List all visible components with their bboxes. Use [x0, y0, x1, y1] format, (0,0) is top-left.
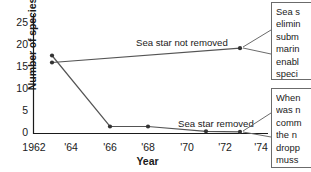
data-point	[238, 46, 242, 50]
chart-figure: Number of species Year 25 20 15 10 5 0 1…	[0, 0, 311, 172]
callout-line: muss	[276, 154, 311, 166]
sea-star-not-removed-callout: Sea s elimin subm marin enabl speci	[271, 2, 311, 80]
axis-lines	[34, 14, 269, 134]
callout-line: comm	[276, 117, 311, 129]
data-point	[108, 124, 112, 128]
callout-line: elimin	[276, 18, 311, 30]
callout-line: was n	[276, 104, 311, 116]
series-sea-star-not-removed	[50, 46, 242, 64]
data-point	[238, 130, 242, 134]
series-sea-star-removed	[50, 53, 242, 133]
data-point	[146, 124, 150, 128]
leader-line-bottom-upper	[243, 113, 271, 131]
leader-line-top-lower	[243, 48, 271, 54]
callout-line: dropp	[276, 142, 311, 154]
callout-line: Sea s	[276, 6, 311, 18]
sea-star-removed-callout: When was n comm the n dropp muss	[271, 88, 311, 168]
leader-line-bottom-lower	[243, 132, 271, 137]
plot-area	[0, 0, 311, 172]
callout-line: subm	[276, 31, 311, 43]
leader-line-top-upper	[243, 30, 271, 47]
data-point	[204, 129, 208, 133]
callout-line: speci	[276, 68, 311, 80]
data-point	[50, 60, 54, 64]
series-line-not-removed	[52, 48, 240, 62]
callout-line: marin	[276, 43, 311, 55]
callout-line: When	[276, 92, 311, 104]
callout-line: the n	[276, 129, 311, 141]
callout-line: enabl	[276, 56, 311, 68]
series-line-removed	[52, 56, 240, 132]
callout-leader-lines	[243, 30, 271, 137]
data-point	[50, 53, 54, 57]
